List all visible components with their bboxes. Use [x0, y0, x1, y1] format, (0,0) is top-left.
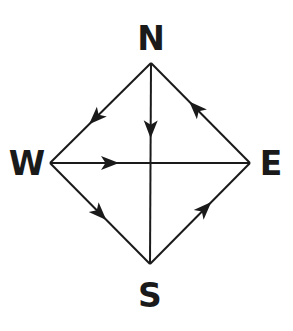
- vertex-label-w: W: [9, 144, 45, 183]
- edge-n-to-w: [50, 63, 151, 163]
- edge-s-to-e: [150, 163, 250, 264]
- edges-group: [50, 63, 250, 264]
- vertex-label-e: E: [260, 144, 283, 183]
- edge-e-to-n: [151, 63, 250, 163]
- directed-graph-diagram: N W E S: [0, 0, 293, 331]
- vertex-label-s: S: [138, 276, 162, 315]
- vertex-labels-group: N W E S: [9, 19, 282, 315]
- vertex-label-n: N: [137, 19, 165, 58]
